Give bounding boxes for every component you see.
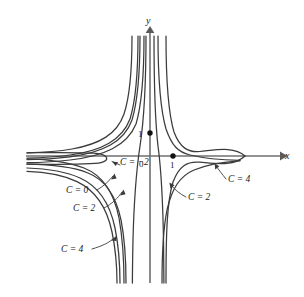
figure-canvas: x y 0 1 1 C = −2 C = 0 C = 2 C = 4 C = 2… <box>0 0 304 297</box>
curve-c-0-upper <box>27 36 138 158</box>
contour-label-c-2-right: C = 2 <box>188 192 210 202</box>
contour-label-c-4-left: C = 4 <box>61 244 83 254</box>
leader-c-4-left <box>92 238 114 249</box>
contour-label-c-2-left: C = 2 <box>73 203 95 213</box>
leader-arrow-c-4-right-icon <box>215 164 220 170</box>
y-axis-arrow-icon <box>146 26 155 33</box>
level-curve-figure: x y 0 1 1 C = −2 C = 0 C = 2 C = 4 C = 2… <box>0 0 304 297</box>
x-axis-label: x <box>284 150 290 161</box>
curve-c-4-right-upper <box>166 36 245 156</box>
leader-c-4-right <box>216 166 226 179</box>
curve-c-2-left-upper <box>27 36 144 163</box>
contour-label-c-minus-2: C = −2 <box>120 157 149 167</box>
leader-c-2-left <box>104 192 122 208</box>
x-tick-label-1: 1 <box>170 160 175 170</box>
leader-lines-group <box>92 162 226 250</box>
contour-label-c-4-right: C = 4 <box>228 174 250 184</box>
contour-label-c-0-left: C = 0 <box>66 185 88 195</box>
curve-c-minus-2-upper <box>27 36 132 153</box>
marked-points-group <box>147 130 175 158</box>
leader-arrow-c-2-left-icon <box>120 189 125 195</box>
curve-c-2-right-upper <box>158 36 240 160</box>
point-y-equals-1 <box>147 130 152 135</box>
y-tick-label-1: 1 <box>138 129 143 139</box>
leader-arrow-c-4-left-icon <box>111 236 116 241</box>
point-x-equals-1 <box>170 153 175 158</box>
y-axis-label: y <box>145 15 151 26</box>
